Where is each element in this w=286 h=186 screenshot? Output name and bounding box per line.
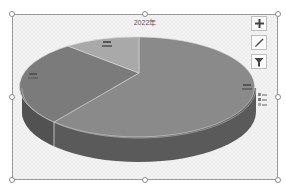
chart-legend[interactable] (258, 92, 272, 107)
legend-item (258, 102, 272, 107)
legend-swatch-c (258, 103, 261, 106)
chart-filters-button[interactable] (251, 54, 267, 69)
chart-styles-button[interactable] (251, 35, 267, 50)
plus-icon (255, 19, 264, 28)
legend-swatch-a (258, 93, 261, 96)
pie-chart-3d[interactable] (0, 0, 286, 186)
brush-icon (254, 38, 264, 48)
legend-label-a (262, 94, 267, 96)
funnel-icon (254, 57, 264, 67)
legend-label-b (262, 99, 267, 101)
chart-elements-button[interactable] (251, 16, 267, 31)
legend-swatch-b (258, 98, 261, 101)
legend-label-c (262, 104, 267, 106)
